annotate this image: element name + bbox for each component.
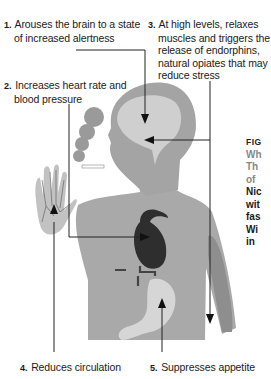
figure-title-line: Th xyxy=(246,161,271,174)
callout-text: Reduces circulation xyxy=(31,361,121,373)
smoke-puff xyxy=(75,137,89,151)
callout-text: Suppresses appetite xyxy=(161,361,255,373)
figure-number: FIG xyxy=(246,136,271,149)
figure-body-line: Nic xyxy=(246,186,271,199)
callout-number: 3. xyxy=(148,20,155,30)
callout-4: 4. Reduces circulation xyxy=(20,361,121,375)
callout-3: 3. At high levels, relaxes muscles and t… xyxy=(148,18,271,82)
callout-text: At high levels, relaxes muscles and trig… xyxy=(158,18,270,81)
callout-number: 1. xyxy=(4,20,11,30)
callout-number: 2. xyxy=(4,81,11,91)
callout-number: 5. xyxy=(150,363,157,373)
callout-1: 1. Arouses the brain to a state of incre… xyxy=(4,18,144,44)
figure-body-line: in xyxy=(246,236,271,249)
callout-text: Arouses the brain to a state of increase… xyxy=(14,18,140,44)
callout-5: 5. Suppresses appetite xyxy=(150,361,255,375)
figure-title-line: of xyxy=(246,174,271,187)
figure-body-line: Wi xyxy=(246,224,271,237)
callout-2: 2. Increases heart rate and blood pressu… xyxy=(4,79,144,105)
figure-body-line: wit xyxy=(246,199,271,212)
callout-text: Increases heart rate and blood pressure xyxy=(14,79,127,105)
figure-title-line: Wh xyxy=(246,149,271,162)
figure-body-line: fas xyxy=(246,211,271,224)
smoke-puff xyxy=(73,150,85,162)
figure-caption: FIG Wh Th of Nic wit fas Wi in xyxy=(246,136,271,249)
callout-number: 4. xyxy=(20,363,27,373)
arrow-arm xyxy=(206,314,214,324)
cigarette xyxy=(82,165,104,168)
